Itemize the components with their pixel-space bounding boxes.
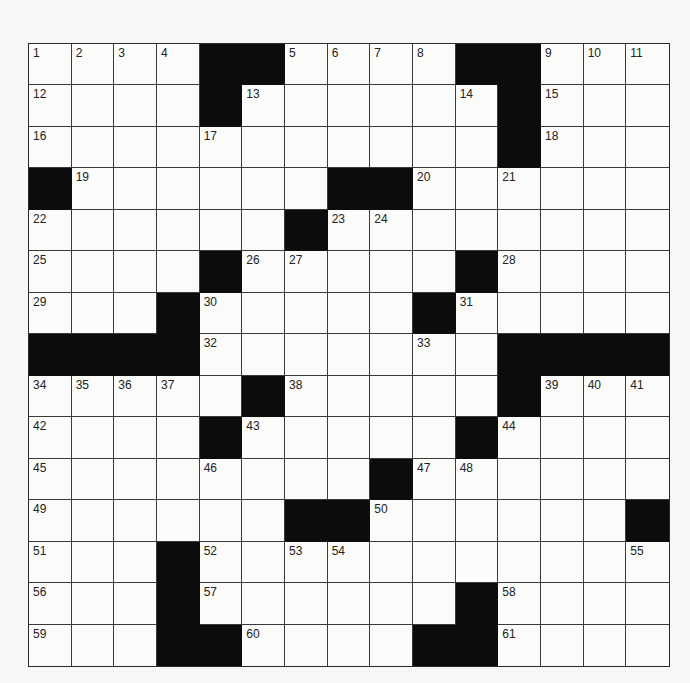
grid-cell[interactable]: 20 [413,168,456,209]
grid-cell[interactable] [498,210,541,251]
grid-cell[interactable]: 6 [328,44,371,85]
grid-cell[interactable]: 60 [242,625,285,666]
grid-cell[interactable] [626,625,669,666]
grid-cell[interactable] [328,417,371,458]
grid-cell[interactable] [498,459,541,500]
grid-cell[interactable]: 12 [29,85,72,126]
grid-cell[interactable]: 21 [498,168,541,209]
grid-cell[interactable] [72,210,115,251]
grid-cell[interactable] [285,85,328,126]
grid-cell[interactable] [413,127,456,168]
grid-cell[interactable] [72,500,115,541]
grid-cell[interactable] [370,251,413,292]
grid-cell[interactable]: 5 [285,44,328,85]
grid-cell[interactable]: 16 [29,127,72,168]
grid-cell[interactable] [541,500,584,541]
grid-cell[interactable]: 40 [584,376,627,417]
grid-cell[interactable] [498,542,541,583]
grid-cell[interactable] [456,168,499,209]
grid-cell[interactable] [541,459,584,500]
grid-cell[interactable]: 36 [114,376,157,417]
grid-cell[interactable]: 17 [200,127,243,168]
grid-cell[interactable] [114,127,157,168]
grid-cell[interactable] [114,500,157,541]
grid-cell[interactable] [114,168,157,209]
grid-cell[interactable] [584,542,627,583]
grid-cell[interactable] [584,127,627,168]
grid-cell[interactable] [370,293,413,334]
grid-cell[interactable]: 59 [29,625,72,666]
grid-cell[interactable] [413,542,456,583]
grid-cell[interactable] [328,583,371,624]
grid-cell[interactable]: 9 [541,44,584,85]
grid-cell[interactable]: 47 [413,459,456,500]
grid-cell[interactable] [370,85,413,126]
grid-cell[interactable] [72,625,115,666]
grid-cell[interactable]: 52 [200,542,243,583]
grid-cell[interactable] [157,85,200,126]
grid-cell[interactable]: 55 [626,542,669,583]
grid-cell[interactable] [157,459,200,500]
grid-cell[interactable] [328,625,371,666]
grid-cell[interactable] [285,459,328,500]
grid-cell[interactable] [541,168,584,209]
grid-cell[interactable]: 56 [29,583,72,624]
grid-cell[interactable] [72,85,115,126]
grid-cell[interactable]: 48 [456,459,499,500]
grid-cell[interactable] [413,417,456,458]
grid-cell[interactable] [285,625,328,666]
grid-cell[interactable]: 24 [370,210,413,251]
grid-cell[interactable] [114,459,157,500]
grid-cell[interactable] [157,210,200,251]
grid-cell[interactable]: 3 [114,44,157,85]
grid-cell[interactable] [328,251,371,292]
grid-cell[interactable] [626,459,669,500]
grid-cell[interactable] [72,459,115,500]
grid-cell[interactable] [370,625,413,666]
grid-cell[interactable] [626,417,669,458]
grid-cell[interactable] [242,168,285,209]
grid-cell[interactable] [498,500,541,541]
grid-cell[interactable] [72,583,115,624]
grid-cell[interactable] [242,293,285,334]
grid-cell[interactable] [114,251,157,292]
grid-cell[interactable] [370,583,413,624]
grid-cell[interactable]: 37 [157,376,200,417]
grid-cell[interactable] [242,210,285,251]
grid-cell[interactable]: 53 [285,542,328,583]
grid-cell[interactable]: 15 [541,85,584,126]
grid-cell[interactable]: 22 [29,210,72,251]
grid-cell[interactable] [584,417,627,458]
grid-cell[interactable] [285,293,328,334]
grid-cell[interactable] [541,251,584,292]
grid-cell[interactable]: 18 [541,127,584,168]
grid-cell[interactable] [114,583,157,624]
grid-cell[interactable]: 31 [456,293,499,334]
grid-cell[interactable] [72,417,115,458]
grid-cell[interactable] [413,500,456,541]
grid-cell[interactable] [370,127,413,168]
grid-cell[interactable] [157,127,200,168]
grid-cell[interactable] [584,85,627,126]
grid-cell[interactable] [413,251,456,292]
grid-cell[interactable] [328,85,371,126]
grid-cell[interactable] [370,376,413,417]
grid-cell[interactable] [456,210,499,251]
grid-cell[interactable]: 8 [413,44,456,85]
grid-cell[interactable]: 57 [200,583,243,624]
grid-cell[interactable] [72,251,115,292]
grid-cell[interactable] [114,293,157,334]
grid-cell[interactable]: 19 [72,168,115,209]
grid-cell[interactable] [285,417,328,458]
grid-cell[interactable]: 32 [200,334,243,375]
grid-cell[interactable] [114,210,157,251]
grid-cell[interactable] [370,334,413,375]
grid-cell[interactable] [626,210,669,251]
grid-cell[interactable] [157,168,200,209]
grid-cell[interactable]: 50 [370,500,413,541]
grid-cell[interactable] [456,500,499,541]
grid-cell[interactable]: 42 [29,417,72,458]
grid-cell[interactable] [584,583,627,624]
grid-cell[interactable]: 11 [626,44,669,85]
grid-cell[interactable] [626,293,669,334]
